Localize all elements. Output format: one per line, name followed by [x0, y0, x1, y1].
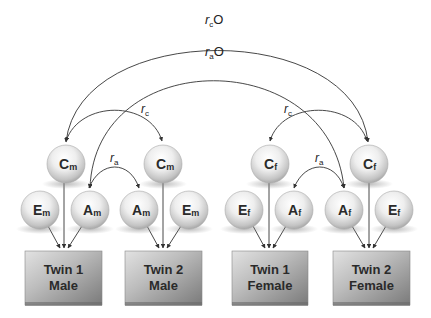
node-a: Af [275, 191, 313, 229]
rc-female-label: rc [284, 102, 292, 118]
node-c: Cm [144, 145, 182, 183]
node-a: Am [120, 191, 158, 229]
ra-female-arc [294, 167, 344, 188]
node-e: Em [170, 191, 208, 229]
box-twin2-male: Twin 2 Male [125, 251, 202, 306]
group-twin2-female: Cf Af Ef Twin 2 Female [320, 145, 418, 306]
group-twin1-female: Cf Ef Af Twin 1 Female [220, 145, 318, 306]
svg-text:Female: Female [349, 278, 394, 293]
ace-twin-diagram: rcO raO rc ra rc ra Cm Em [0, 0, 431, 318]
box-twin1-male: Twin 1 Male [25, 251, 102, 306]
node-c: Cf [251, 145, 289, 183]
rc-outer-label: rcO [205, 12, 223, 29]
svg-text:Male: Male [149, 278, 178, 293]
svg-text:Male: Male [49, 278, 78, 293]
box-twin2-female: Twin 2 Female [333, 251, 410, 306]
svg-text:Twin 1: Twin 1 [44, 262, 83, 277]
svg-text:Female: Female [248, 278, 293, 293]
ra-male-label: ra [110, 151, 119, 167]
group-twin1-male: Cm Em Am Twin 1 Male [16, 145, 114, 306]
node-e: Ef [375, 191, 413, 229]
ra-male-arc [89, 167, 139, 188]
node-a: Am [71, 191, 109, 229]
svg-text:Twin 2: Twin 2 [144, 262, 183, 277]
rc-outer-arc [66, 51, 368, 143]
box-twin1-female: Twin 1 Female [232, 251, 308, 306]
ra-female-label: ra [315, 151, 324, 167]
group-twin2-male: Cm Am Em Twin 2 Male [115, 145, 213, 306]
node-e: Em [21, 191, 59, 229]
ra-outer-label: raO [205, 44, 224, 61]
svg-text:Twin 2: Twin 2 [352, 262, 391, 277]
node-a: Af [325, 191, 363, 229]
node-c: Cf [350, 145, 388, 183]
rc-male-label: rc [141, 102, 149, 118]
node-c: Cm [47, 145, 85, 183]
svg-text:Twin 1: Twin 1 [250, 262, 289, 277]
node-e: Ef [225, 191, 263, 229]
